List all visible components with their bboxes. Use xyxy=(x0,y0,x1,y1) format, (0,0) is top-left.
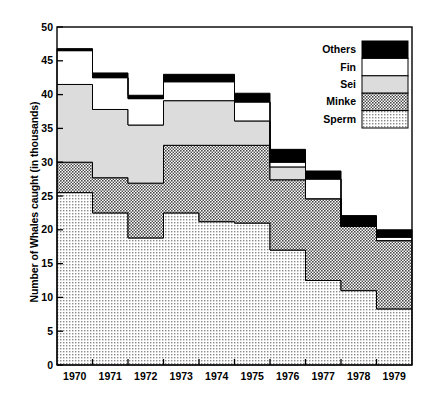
whale-catch-chart: Number of Whales caught (in thousands) 0… xyxy=(0,0,423,412)
legend-swatch-fin xyxy=(362,58,408,75)
legend-swatch-sei xyxy=(362,76,408,93)
legend-swatch-sperm xyxy=(362,111,408,128)
legend-swatches xyxy=(362,41,408,128)
plot-area xyxy=(0,0,423,412)
stacked-areas xyxy=(57,49,412,365)
legend-swatch-others xyxy=(362,41,408,58)
legend-swatch-minke xyxy=(362,93,408,110)
